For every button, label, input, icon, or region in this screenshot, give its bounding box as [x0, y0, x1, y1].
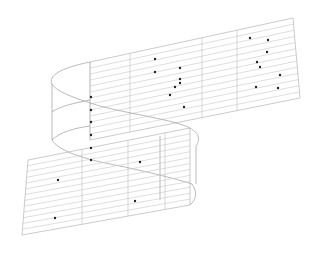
point-marker [90, 134, 92, 136]
stripe-line [90, 36, 295, 80]
point-marker [139, 161, 141, 163]
point-marker [255, 86, 257, 88]
stripe-line [90, 80, 298, 122]
stripe-line [90, 98, 300, 140]
point-marker [277, 87, 279, 89]
point-marker [279, 74, 281, 76]
stripe-line [90, 73, 298, 116]
point-marker [134, 200, 136, 202]
point-marker [179, 78, 181, 80]
point-marker [54, 217, 56, 219]
point-marker [169, 94, 171, 96]
point-marker [90, 109, 92, 111]
point-marker [267, 39, 269, 41]
point-marker [57, 179, 59, 181]
panel-edge-left [22, 160, 28, 235]
point-marker [179, 82, 181, 84]
stripe-line [26, 158, 190, 189]
point-marker [259, 66, 261, 68]
stripe-line [22, 205, 190, 235]
stripe-line [90, 18, 293, 62]
point-markers [54, 37, 281, 219]
point-marker [266, 51, 268, 53]
stripe-line [27, 146, 190, 178]
point-marker [256, 61, 258, 63]
folded-sheet-diagram [0, 0, 330, 258]
upper-panel [90, 18, 300, 140]
point-marker [249, 37, 251, 39]
point-marker [90, 159, 92, 161]
lower-panel [22, 128, 190, 235]
stripe-line [90, 86, 299, 128]
point-marker [154, 58, 156, 60]
point-marker [183, 106, 185, 108]
stripe-line [90, 92, 299, 134]
stripe-line [26, 152, 190, 183]
stripe-line [90, 30, 294, 74]
point-marker [179, 67, 181, 69]
point-marker [90, 147, 92, 149]
point-marker [90, 121, 92, 123]
point-marker [154, 71, 156, 73]
stripe-line [90, 24, 294, 68]
stripe-line [90, 43, 295, 86]
point-marker [90, 96, 92, 98]
point-marker [174, 86, 176, 88]
